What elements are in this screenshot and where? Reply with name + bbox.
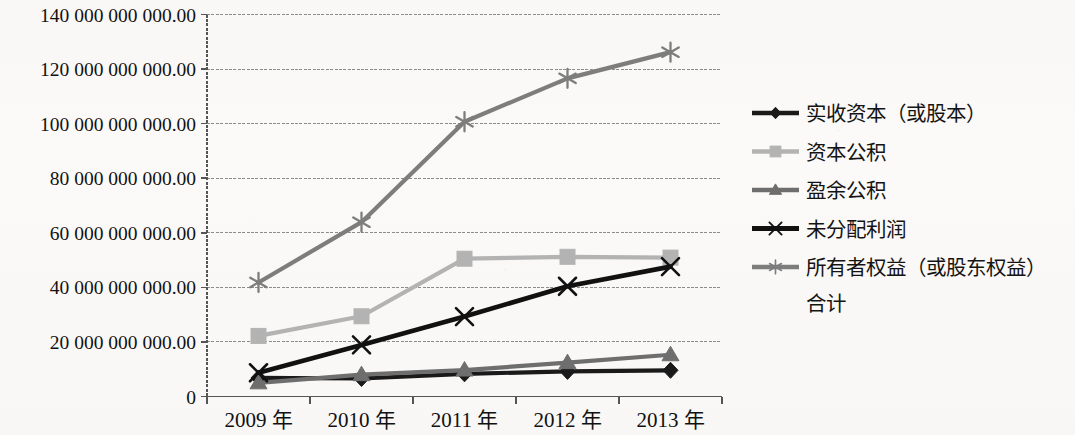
x-tick-label: 2010 年 — [327, 408, 395, 432]
x-tick-labels: 2009 年2010 年2011 年2012 年2013 年 — [224, 408, 704, 432]
x-tick-label: 2012 年 — [533, 408, 601, 432]
legend-item-1[interactable]: 实收资本（或股本） — [752, 103, 986, 125]
legend-label: 实收资本（或股本） — [806, 103, 986, 125]
legend-item-4[interactable]: 未分配利润 — [752, 219, 906, 241]
y-tick-label: 40 000 000 000.00 — [50, 277, 196, 298]
legend-label-continued: 合计 — [806, 293, 846, 315]
series-lines-group — [250, 43, 679, 389]
data-point-square-marker — [354, 309, 369, 324]
y-tick-label: 60 000 000 000.00 — [50, 223, 196, 244]
x-tick-label: 2011 年 — [431, 408, 498, 432]
series-line — [259, 52, 671, 282]
legend-item-5[interactable]: 所有者权益（或股东权益）合计 — [752, 257, 1046, 315]
x-axis — [201, 15, 722, 404]
owners-equity-line-chart: 020 000 000 000.0040 000 000 000.0060 00… — [0, 0, 1075, 435]
data-point-diamond-marker — [770, 107, 781, 119]
data-point-diamond-marker — [663, 362, 678, 378]
legend-label: 盈余公积 — [806, 180, 886, 202]
data-point-square-marker — [457, 251, 472, 266]
series-2 — [251, 249, 678, 343]
legend-item-3[interactable]: 盈余公积 — [752, 180, 886, 202]
legend-item-2[interactable]: 资本公积 — [752, 142, 886, 164]
data-point-square-marker — [770, 146, 781, 157]
data-point-square-marker — [251, 328, 266, 343]
y-tick-label: 140 000 000 000.00 — [40, 5, 196, 26]
chart-screenshot: 020 000 000 000.0040 000 000 000.0060 00… — [0, 0, 1075, 435]
data-point-asterisk-marker — [250, 273, 266, 292]
x-tick-label: 2013 年 — [636, 408, 704, 432]
data-point-square-marker — [560, 249, 575, 264]
legend: 实收资本（或股本）资本公积盈余公积未分配利润所有者权益（或股东权益）合计 — [752, 103, 1046, 315]
y-tick-label: 120 000 000 000.00 — [40, 59, 196, 80]
legend-label: 资本公积 — [806, 142, 886, 164]
y-tick-label: 80 000 000 000.00 — [50, 168, 196, 189]
series-line — [259, 257, 671, 336]
y-tick-label: 100 000 000 000.00 — [40, 114, 196, 135]
y-tick-label: 0 — [186, 387, 196, 408]
legend-label: 未分配利润 — [806, 219, 906, 241]
legend-label: 所有者权益（或股东权益） — [806, 257, 1046, 279]
series-line — [259, 267, 671, 373]
y-tick-label: 20 000 000 000.00 — [50, 332, 196, 353]
x-tick-label: 2009 年 — [224, 408, 292, 432]
gridlines-group — [207, 15, 722, 397]
y-tick-labels: 020 000 000 000.0040 000 000 000.0060 00… — [40, 5, 196, 408]
